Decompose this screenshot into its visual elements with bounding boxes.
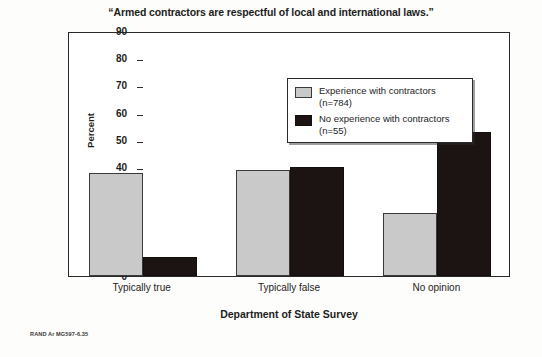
gray-swatch-icon — [295, 87, 312, 98]
bar — [290, 167, 344, 276]
legend-item-label: No experience with contractors (n=55) — [319, 113, 464, 136]
x-axis-category-label: No opinion — [376, 282, 496, 293]
bar — [143, 257, 197, 276]
figure-container: “Armed contractors are respectful of loc… — [0, 0, 542, 357]
legend-item-no-experience: No experience with contractors (n=55) — [295, 113, 464, 136]
plot-area: Percent 0102030405060708090 Experience w… — [68, 32, 510, 277]
x-axis-title: Department of State Survey — [68, 308, 510, 320]
legend-item-label: Experience with contractors (n=784) — [319, 85, 464, 108]
bar-group — [383, 31, 491, 276]
figure-credit: RAND Ar MG597-6.35 — [30, 331, 88, 337]
bar — [437, 132, 491, 276]
x-axis-category-label: Typically false — [229, 282, 349, 293]
black-swatch-icon — [295, 115, 312, 126]
chart-title: “Armed contractors are respectful of loc… — [0, 6, 542, 18]
bar — [236, 170, 290, 276]
chart-legend: Experience with contractors (n=784) No e… — [287, 78, 473, 143]
bar — [383, 213, 437, 276]
x-axis-category-label: Typically true — [82, 282, 202, 293]
bar — [89, 173, 143, 276]
bar-group — [236, 31, 344, 276]
bar-group — [89, 31, 197, 276]
legend-item-experience: Experience with contractors (n=784) — [295, 85, 464, 108]
